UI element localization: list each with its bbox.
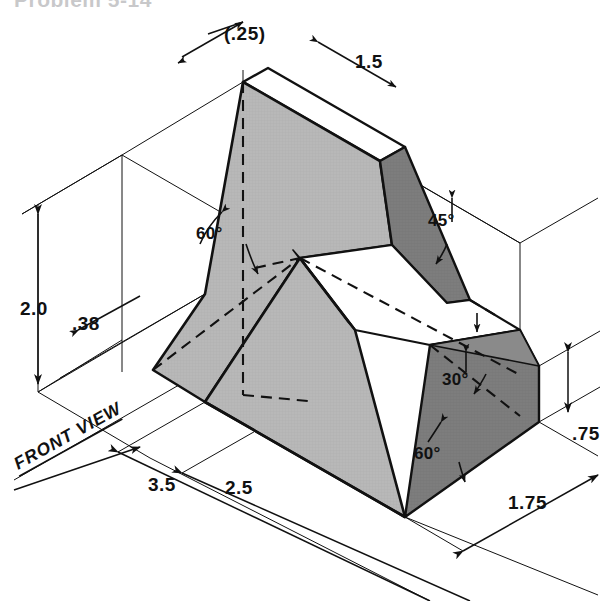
dim-label-overall-depth: 1.75 xyxy=(508,492,547,513)
dim-label-top-width: 1.5 xyxy=(355,51,383,72)
dim-label-overall-height: 2.0 xyxy=(20,298,48,319)
technical-drawing-canvas: Problem 5-14 xyxy=(0,0,610,601)
dim-label-base-thickness: .38 xyxy=(72,313,100,334)
dim-label-slot-length: 2.5 xyxy=(225,477,253,498)
dim-label-overall-length: 3.5 xyxy=(148,474,176,495)
angle-label-right-45: 45° xyxy=(428,211,455,230)
angle-label-front-60: 60° xyxy=(414,444,441,463)
dim-label-top-depth: (.25) xyxy=(224,23,266,44)
dimline-overall-depth xyxy=(463,475,598,551)
angle-label-left-60: 60° xyxy=(196,224,223,243)
isometric-drawing-svg: (.25) 1.5 2.0 .38 3.5 2.5 .75 1.75 60° 4… xyxy=(0,0,610,601)
angle-label-front-30: 30° xyxy=(442,370,469,389)
dim-label-right-height: .75 xyxy=(572,423,600,444)
